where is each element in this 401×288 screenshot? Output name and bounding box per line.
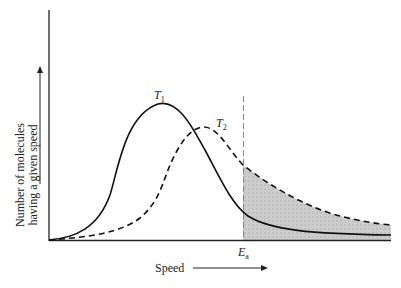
t2-label: T2 xyxy=(216,116,227,132)
x-axis-label: Speed xyxy=(155,261,184,275)
y-axis-label-line1: Number of molecules xyxy=(13,123,27,227)
t1-label: T1 xyxy=(154,88,165,104)
ea-label: Ea xyxy=(237,245,249,261)
y-axis-label-line2: having a given speed xyxy=(26,125,40,226)
maxwell-boltzmann-diagram: T1 T2 Ea Speed Number of molecules havin… xyxy=(0,0,401,288)
x-arrowhead-icon xyxy=(261,265,268,271)
shaded-region xyxy=(243,165,391,240)
y-arrowhead-icon xyxy=(37,66,43,73)
